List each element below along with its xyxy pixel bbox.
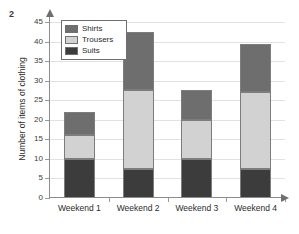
bar-segment-shirts — [64, 112, 95, 135]
legend-item: Suits — [65, 45, 123, 56]
legend-item: Trousers — [65, 34, 123, 45]
x-axis-line — [49, 197, 281, 198]
bar-segment-suits — [181, 159, 212, 198]
bar-segment-trousers — [64, 135, 95, 158]
bar-segment-shirts — [240, 44, 271, 93]
legend-swatch-icon — [65, 47, 78, 55]
legend-swatch-icon — [65, 25, 78, 33]
bar-segment-shirts — [123, 32, 154, 91]
legend-item: Shirts — [65, 23, 123, 34]
bar-segment-trousers — [240, 92, 271, 168]
bar-segment-trousers — [123, 90, 154, 168]
legend-label: Shirts — [82, 24, 102, 33]
x-axis-tick-mark — [109, 198, 110, 202]
y-axis-title: Number of items of clothing — [17, 34, 27, 184]
y-axis-tick-label: 0 — [1, 193, 43, 202]
x-axis-tick-mark — [168, 198, 169, 202]
legend-label: Trousers — [82, 35, 113, 44]
y-axis-tick-mark — [45, 198, 50, 199]
bar-4 — [240, 0, 271, 234]
bar-2 — [123, 0, 154, 234]
x-axis-tick-mark — [226, 198, 227, 202]
stacked-bar-chart-figure: 2 051015202530354045 Weekend 1Weekend 2W… — [0, 0, 299, 234]
bar-segment-suits — [64, 159, 95, 198]
y-axis-line — [49, 16, 50, 198]
bar-segment-trousers — [181, 120, 212, 159]
plot-area: 051015202530354045 Weekend 1Weekend 2Wee… — [0, 0, 299, 234]
legend-label: Suits — [82, 46, 100, 55]
x-axis-category-label: Weekend 4 — [219, 203, 293, 213]
bar-segment-suits — [240, 169, 271, 198]
x-axis-arrowhead-icon — [281, 194, 289, 202]
y-axis-arrowhead-icon — [46, 9, 54, 17]
bar-segment-shirts — [181, 90, 212, 119]
y-axis-tick-label: 45 — [1, 17, 43, 26]
legend-swatch-icon — [65, 36, 78, 44]
chart-legend: ShirtsTrousersSuits — [61, 20, 127, 60]
bar-3 — [181, 0, 212, 234]
bar-segment-suits — [123, 169, 154, 198]
